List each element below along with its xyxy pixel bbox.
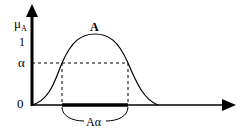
tick-one-label: 1 [19,35,25,49]
cut-label: Aα [86,115,102,129]
alpha-cut-diagram: μA 1 α 0 A Aα [0,0,240,134]
x-axis-arrow-icon [222,99,236,111]
curve-label: A [90,20,99,34]
origin-label: 0 [17,96,24,111]
membership-curve [32,34,158,105]
tick-alpha-label: α [18,55,25,70]
y-axis-label: μA [14,16,27,33]
y-axis-arrow-icon [26,4,38,17]
